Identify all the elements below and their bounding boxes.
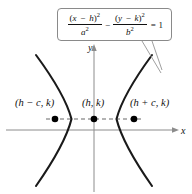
right-fraction: (y − k)2 b2	[113, 12, 147, 37]
hyperbola-figure: (x − h)2 a2 − (y − k)2 b2 = 1 (h − c, k)…	[0, 0, 192, 194]
rf-num-minus: −	[124, 13, 134, 23]
right-fraction-denominator: b2	[124, 25, 136, 37]
rf-den-exponent: 2	[131, 25, 134, 32]
right-fraction-numerator: (y − k)2	[113, 12, 147, 24]
rf-num-exponent: 2	[142, 11, 145, 18]
lf-num-variable: x	[73, 13, 77, 23]
left-fraction-denominator: a2	[79, 25, 91, 37]
right-focus-point	[131, 116, 138, 123]
lf-num-minus: −	[78, 13, 88, 23]
callout-pointer-left-stroke	[142, 41, 161, 73]
equation-operator: −	[105, 20, 110, 30]
left-focus-label: (h − c, k)	[15, 98, 54, 109]
equation-right-hand-side: 1	[158, 20, 163, 30]
left-fraction: (x − h)2 a2	[68, 12, 102, 37]
equation-callout-box: (x − h)2 a2 − (y − k)2 b2 = 1	[57, 8, 172, 41]
left-focus-point	[52, 116, 59, 123]
center-point	[91, 116, 98, 123]
center-label: (h, k)	[82, 98, 104, 109]
equation-equals-sign: =	[151, 20, 156, 30]
left-fraction-numerator: (x − h)2	[68, 12, 102, 24]
rf-num-variable: y	[118, 13, 122, 23]
x-axis-arrowhead	[172, 127, 179, 132]
y-axis-label: y	[88, 43, 92, 53]
right-focus-label: (h + c, k)	[130, 98, 169, 109]
standard-form-equation: (x − h)2 a2 − (y − k)2 b2 = 1	[66, 12, 163, 37]
x-axis-label: x	[181, 126, 185, 136]
lf-num-exponent: 2	[97, 11, 100, 18]
lf-den-exponent: 2	[85, 25, 88, 32]
